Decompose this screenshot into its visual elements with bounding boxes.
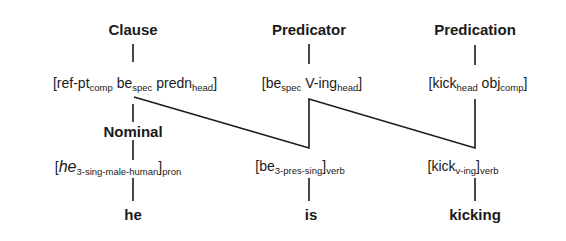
verb-kick-features: [kickv-ing]verb (428, 159, 499, 176)
feature-base: ] (213, 75, 217, 91)
feature-base: V-ing (301, 75, 337, 91)
feature-role-subscript: head (337, 82, 358, 93)
kick-sub: v-ing (456, 165, 477, 176)
clause-features: [ref-ptcomp bespec prednhead] (53, 76, 217, 93)
feature-base: [kick (429, 75, 457, 91)
feature-role-subscript: spec (281, 82, 301, 93)
feature-role-subscript: comp (90, 82, 113, 93)
pron-base: he (59, 158, 77, 175)
predicator-label: Predicator (272, 22, 346, 37)
nominal-label: Nominal (103, 124, 162, 139)
zigzag-link (134, 97, 475, 148)
verb-be-features: [be3-pres-sing]verb (255, 159, 344, 176)
word-is: is (305, 207, 318, 222)
predication-features: [kickhead objcomp] (429, 76, 528, 93)
feature-base: be (113, 75, 132, 91)
feature-role-subscript: spec (132, 82, 152, 93)
pron-post-sub: pron (162, 166, 181, 177)
feature-base: predn (152, 75, 192, 91)
feature-base: ] (524, 75, 528, 91)
word-he: he (124, 207, 142, 222)
word-kicking: kicking (449, 207, 501, 222)
feature-base: obj (478, 75, 501, 91)
feature-role-subscript: head (192, 82, 213, 93)
predication-label: Predication (434, 22, 516, 37)
feature-base: [be (262, 75, 281, 91)
feature-base: ] (358, 75, 362, 91)
kick-base: kick (431, 158, 455, 174)
pron-sub: 3-sing-male-human (76, 166, 158, 177)
feature-role-subscript: head (457, 82, 478, 93)
clause-label: Clause (108, 22, 157, 37)
predicator-features: [bespec V-inghead] (262, 76, 362, 93)
kick-post-sub: verb (480, 165, 498, 176)
feature-base: [ref-pt (53, 75, 90, 91)
be-sub: 3-pres-sing (275, 165, 323, 176)
pronoun-features: [he3-sing-male-human]pron (55, 159, 181, 177)
be-base: be (259, 158, 275, 174)
be-post-sub: verb (326, 165, 344, 176)
feature-role-subscript: comp (500, 82, 523, 93)
